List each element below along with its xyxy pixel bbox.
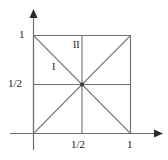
- x-axis-arrowhead-icon: [154, 130, 163, 138]
- center-point-marker: [80, 82, 84, 86]
- unit-square-diagram-svg: [0, 0, 168, 160]
- y-axis-arrowhead-icon: [30, 9, 38, 18]
- x-axis-tick-label-half: 1/2: [71, 139, 85, 150]
- y-axis-tick-label-half: 1/2: [8, 78, 22, 89]
- y-axis-tick-label-1: 1: [19, 29, 25, 40]
- region-label-ii: II: [73, 40, 80, 50]
- x-axis-tick-label-1: 1: [127, 139, 133, 150]
- region-label-i: I: [52, 62, 55, 72]
- diagram-canvas: 1 1/2 1/2 1 I II: [0, 0, 168, 160]
